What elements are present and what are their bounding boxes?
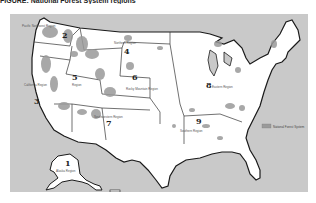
svg-text:6: 6 <box>132 72 138 82</box>
svg-text:Alaska Region: Alaska Region <box>56 169 76 173</box>
svg-text:Eastern Region: Eastern Region <box>212 85 233 89</box>
svg-text:2: 2 <box>62 30 68 40</box>
us-map-svg: 2 Pacific Northwest Region 3 California … <box>10 14 308 192</box>
svg-text:California Region: California Region <box>24 83 47 87</box>
svg-text:Pacific Northwest Region: Pacific Northwest Region <box>22 24 56 28</box>
svg-text:9: 9 <box>196 116 202 126</box>
legend-label: National Forest System <box>273 125 305 129</box>
legend: National Forest System <box>262 124 305 129</box>
svg-text:7: 7 <box>106 118 112 128</box>
svg-text:Region: Region <box>72 83 82 87</box>
svg-text:1: 1 <box>65 158 71 168</box>
svg-text:Southern Region: Southern Region <box>180 129 203 133</box>
svg-text:3: 3 <box>34 96 40 106</box>
island-landmass <box>110 190 120 192</box>
svg-text:5: 5 <box>72 72 78 82</box>
svg-text:Northern Region: Northern Region <box>114 41 136 45</box>
svg-text:4: 4 <box>124 46 130 56</box>
legend-swatch <box>262 124 271 128</box>
svg-text:Rocky Mountain Region: Rocky Mountain Region <box>126 87 158 91</box>
figure-title: FIGURE: National Forest System regions <box>0 0 316 4</box>
svg-text:Southwestern Region: Southwestern Region <box>94 115 123 119</box>
map: 2 Pacific Northwest Region 3 California … <box>10 14 308 192</box>
